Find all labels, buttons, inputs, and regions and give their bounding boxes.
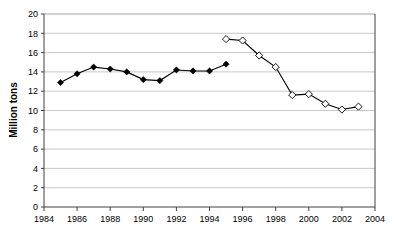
data-point-1998 (272, 63, 279, 70)
data-point-1991 (157, 77, 163, 83)
x-tick-label: 2004 (365, 214, 385, 224)
x-tick-label: 1986 (67, 214, 87, 224)
data-point-1989 (124, 69, 130, 75)
y-tick-label: 8 (33, 125, 38, 135)
x-tick-label: 1996 (233, 214, 253, 224)
x-tick-labels: 1984198619881990199219941996199820002002… (34, 214, 385, 224)
x-tick-label: 1992 (166, 214, 186, 224)
line-chart: 02468101214161820 1984198619881990199219… (0, 0, 397, 241)
y-tick-label: 10 (28, 106, 38, 116)
y-tick-label: 20 (28, 9, 38, 19)
x-tick-label: 1984 (34, 214, 54, 224)
y-tick-label: 6 (33, 144, 38, 154)
y-tick-label: 0 (33, 202, 38, 212)
x-tick-label: 2000 (299, 214, 319, 224)
data-series-group (57, 35, 362, 113)
x-tick-label: 1988 (100, 214, 120, 224)
data-point-1987 (91, 64, 97, 70)
data-point-2003 (355, 103, 362, 110)
chart-container: 02468101214161820 1984198619881990199219… (0, 0, 397, 241)
x-tick-label: 1994 (199, 214, 219, 224)
data-point-2001 (322, 100, 329, 107)
data-point-1990 (140, 77, 146, 83)
y-tick-label: 18 (28, 29, 38, 39)
x-tick-label: 1998 (266, 214, 286, 224)
x-tick-label: 1990 (133, 214, 153, 224)
y-tick-label: 4 (33, 164, 38, 174)
data-point-2000 (305, 90, 312, 97)
data-point-1999 (289, 91, 296, 98)
y-tick-labels: 02468101214161820 (28, 9, 38, 212)
data-point-1988 (107, 66, 113, 72)
y-tick-label: 12 (28, 86, 38, 96)
y-tick-label: 16 (28, 48, 38, 58)
data-point-1994 (206, 68, 212, 74)
data-point-1995 (222, 35, 229, 42)
axes-group (41, 14, 375, 211)
data-point-1993 (190, 68, 196, 74)
y-tick-label: 14 (28, 67, 38, 77)
x-tick-label: 2002 (332, 214, 352, 224)
y-tick-label: 2 (33, 183, 38, 193)
y-axis-title: Million tons (8, 82, 19, 138)
data-point-1985 (57, 79, 63, 85)
data-point-1995 (223, 61, 229, 67)
data-point-2002 (338, 106, 345, 113)
